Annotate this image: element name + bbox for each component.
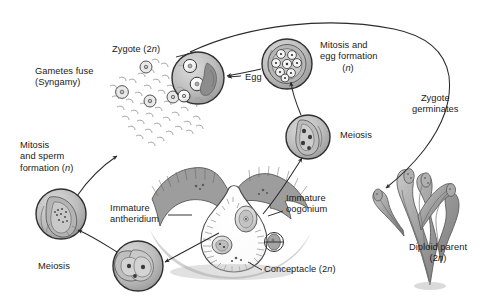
label-diploid-parent: Diploid parent(2n) xyxy=(399,242,477,265)
meiosis-oogonium-inset xyxy=(286,115,330,159)
free-zygotes xyxy=(116,61,179,107)
label-egg: Egg xyxy=(245,72,262,83)
arrow-sperm-to-syngamy xyxy=(77,156,117,196)
label-gametes-fuse: Gametes fuse(Syngamy) xyxy=(35,66,93,89)
label-mitosis-sperm-formation: Mitosisand spermformation (n) xyxy=(20,140,73,174)
label-pointers xyxy=(228,76,241,77)
mitosis-sperm-formation-inset xyxy=(36,189,86,239)
meiosis-antheridium-inset xyxy=(113,241,163,291)
arrow-antheridium-to-sperm xyxy=(78,230,117,252)
leader-immature-oogonium xyxy=(268,211,283,216)
mitosis-egg-formation-inset xyxy=(262,39,312,89)
label-zygote-germinates: Zygotegerminates xyxy=(412,93,459,116)
label-zygote: Zygote (2n) xyxy=(112,44,160,55)
oogonium-in-conceptacle xyxy=(235,206,257,232)
label-conceptacle: Conceptacle (2n) xyxy=(264,264,336,275)
egg-cell-inset xyxy=(172,52,224,104)
pointer-egg xyxy=(228,76,241,77)
label-meiosis-right: Meiosis xyxy=(340,130,372,141)
antheridium-in-conceptacle xyxy=(212,236,232,254)
label-immature-oogonium: Immatureoogonium xyxy=(286,193,327,216)
label-immature-antheridium: Immatureantheridium xyxy=(110,203,159,226)
label-meiosis-left: Meiosis xyxy=(38,261,70,272)
label-mitosis-egg-formation: Mitosis andegg formation(n) xyxy=(320,40,378,74)
life-cycle-diagram: Zygote (2n) Gametes fuse(Syngamy) Mitosi… xyxy=(0,0,497,303)
